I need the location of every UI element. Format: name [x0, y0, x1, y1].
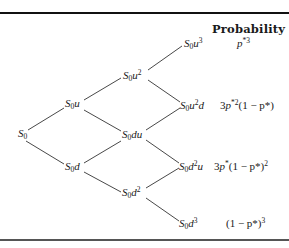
- probability-d3: (1 − p*)3: [226, 217, 265, 229]
- probability-u2d: 3p*2(1 − p*): [220, 99, 274, 111]
- edge-s0u-s0du: [84, 110, 121, 131]
- edge-s0du-s0d2u: [146, 140, 179, 163]
- edge-s0-s0u: [28, 108, 64, 130]
- edge-s0u2-s0u2d: [148, 80, 180, 102]
- edge-s0d2-s0d2u: [146, 168, 179, 188]
- node-s0d3: S0d3: [179, 217, 198, 231]
- edge-s0d-s0d2: [84, 172, 121, 192]
- node-s0: S0: [18, 128, 27, 141]
- node-s0u2: S0u2: [123, 69, 142, 83]
- edge-s0du-s0u2d: [146, 108, 180, 130]
- edge-s0d2-s0d3: [146, 198, 179, 221]
- node-s0d: S0d: [65, 161, 80, 174]
- node-s0u: S0u: [65, 98, 80, 111]
- edge-s0-s0d: [26, 141, 64, 164]
- probability-d2u: 3p*(1 − p*)2: [214, 160, 268, 172]
- probability-header: Probability: [212, 22, 285, 36]
- node-s0u3: S0u3: [184, 37, 203, 51]
- node-s0u2d: S0u2d: [180, 99, 204, 113]
- node-s0d2: S0d2: [122, 186, 141, 200]
- edge-s0d-s0du: [84, 141, 121, 163]
- node-s0d2u: S0d2u: [179, 160, 203, 174]
- edge-s0u-s0u2: [84, 78, 121, 100]
- probability-u3: p*3: [237, 37, 250, 49]
- node-s0du: S0du: [122, 129, 142, 142]
- edge-s0u2-s0u3: [148, 46, 182, 70]
